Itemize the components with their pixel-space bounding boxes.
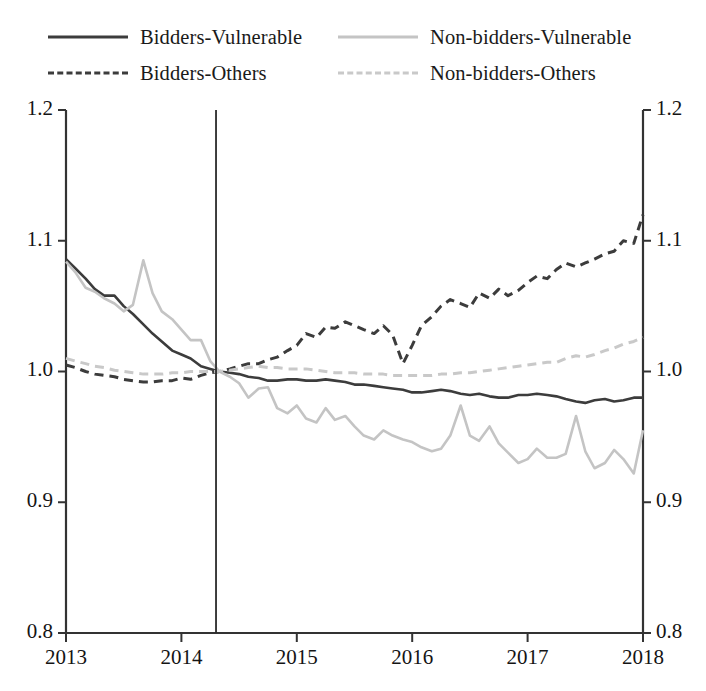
y-tick-label-left: 0.8 [27,619,53,643]
plot-area: 0.80.80.90.91.01.01.11.11.21.22013201420… [0,0,706,691]
axes-group [58,110,651,642]
series-line-bidders-others [66,215,643,382]
tick-label-group: 0.80.80.90.91.01.01.11.11.21.22013201420… [27,96,683,669]
y-tick-label-left: 1.2 [27,96,53,120]
x-tick-label: 2013 [45,645,87,669]
y-tick-label-right: 0.8 [656,619,682,643]
x-tick-label: 2016 [391,645,433,669]
series-group [66,215,643,474]
series-line-bidders-vulnerable [66,259,643,403]
y-tick-label-right: 1.1 [656,227,682,251]
x-tick-label: 2017 [507,645,549,669]
x-tick-label: 2014 [160,645,203,669]
series-line-non-bidders-vulnerable [66,260,643,473]
y-tick-label-left: 1.1 [27,227,53,251]
y-tick-label-left: 1.0 [27,357,53,381]
x-tick-label: 2015 [276,645,318,669]
series-line-non-bidders-others [66,338,643,376]
y-tick-label-right: 1.0 [656,357,682,381]
y-tick-label-right: 0.9 [656,488,682,512]
y-tick-label-right: 1.2 [656,96,682,120]
x-tick-label: 2018 [622,645,664,669]
chart-figure: Bidders-Vulnerable Non-bidders-Vulnerabl… [0,0,706,691]
y-tick-label-left: 0.9 [27,488,53,512]
chart-svg: 0.80.80.90.91.01.01.11.11.21.22013201420… [0,0,706,691]
